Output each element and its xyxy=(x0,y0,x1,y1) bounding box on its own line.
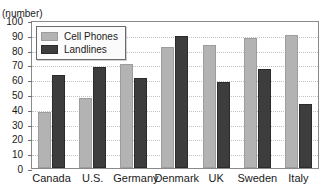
y-axis-tick-label: 30 xyxy=(0,121,23,131)
x-axis-label: Sweden xyxy=(237,172,278,184)
bar-landlines xyxy=(217,82,230,168)
bar-landlines xyxy=(134,78,147,168)
x-axis-label: U.S. xyxy=(72,172,113,184)
y-axis-tick-label: 40 xyxy=(0,106,23,116)
y-axis-tick-label: 60 xyxy=(0,76,23,86)
bar-cell-phones xyxy=(38,112,51,168)
bar-landlines xyxy=(52,75,65,168)
bar-cell-phones xyxy=(285,35,298,168)
y-axis-tick-mark xyxy=(28,170,32,171)
y-axis-tick-label: 10 xyxy=(0,150,23,160)
bar-cell-phones xyxy=(161,47,174,168)
bar-group xyxy=(155,22,196,168)
bar-cell-phones xyxy=(244,38,257,168)
bar-group xyxy=(279,22,320,168)
y-axis-tick-label: 90 xyxy=(0,32,23,42)
bar-landlines xyxy=(258,69,271,168)
bar-cell-phones xyxy=(79,98,92,168)
legend-label-cell-phones: Cell Phones xyxy=(64,31,118,42)
y-axis-tick-label: 20 xyxy=(0,135,23,145)
x-axis-label: Canada xyxy=(31,172,72,184)
y-axis-tick-label: 80 xyxy=(0,47,23,57)
bar-landlines xyxy=(299,104,312,168)
bar-landlines xyxy=(175,36,188,168)
legend-label-landlines: Landlines xyxy=(64,44,107,55)
y-axis-tick-label: 0 xyxy=(0,165,23,175)
bar-group xyxy=(238,22,279,168)
legend: Cell Phones Landlines xyxy=(36,26,126,60)
x-axis-label: Germany xyxy=(113,172,154,184)
bar-cell-phones xyxy=(120,64,133,168)
x-axis-label: Italy xyxy=(278,172,319,184)
bar-cell-phones xyxy=(203,45,216,168)
y-axis-tick-label: 50 xyxy=(0,91,23,101)
legend-swatch-icon-landlines xyxy=(41,45,58,54)
y-axis-tick-label: 100 xyxy=(0,17,23,27)
bar-group xyxy=(197,22,238,168)
bar-landlines xyxy=(93,67,106,168)
y-axis-tick-label: 70 xyxy=(0,61,23,71)
bar-chart: (number) 1009080706050403020100 CanadaU.… xyxy=(0,0,323,192)
legend-item-landlines: Landlines xyxy=(41,43,118,56)
x-axis-label: Denmark xyxy=(154,172,195,184)
legend-item-cell-phones: Cell Phones xyxy=(41,30,118,43)
x-axis-label: UK xyxy=(196,172,237,184)
legend-swatch-icon-cell-phones xyxy=(41,32,58,41)
